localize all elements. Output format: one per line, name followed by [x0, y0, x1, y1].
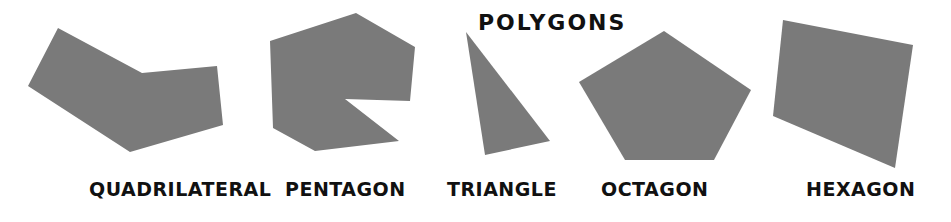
shape-hexagon [773, 20, 913, 168]
shape-pentagon [270, 13, 415, 151]
label-pentagon: PENTAGON [285, 180, 406, 199]
shape-quadrilateral [28, 28, 223, 152]
label-triangle: TRIANGLE [447, 180, 557, 199]
diagram-title: POLYGONS [478, 12, 626, 34]
shape-octagon [579, 31, 751, 160]
shape-triangle [466, 32, 550, 155]
label-hexagon: HEXAGON [806, 180, 915, 199]
label-quadrilateral: QUADRILATERAL [89, 180, 271, 199]
label-octagon: OCTAGON [601, 180, 708, 199]
